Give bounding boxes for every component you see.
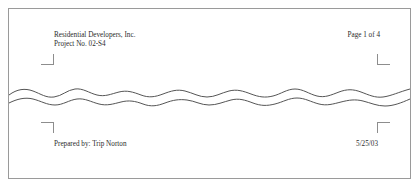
document-date-text: 5/25/03 [356,140,378,149]
crop-mark-bottom-right-icon [377,122,390,133]
page-number-label: Page 1 of 4 [347,31,380,40]
header-left-text-block: Residential Developers, Inc. Project No.… [54,31,135,50]
prepared-by-label: Prepared by: Trip Norton [54,140,126,149]
crop-mark-top-right-icon [377,54,390,65]
header-region: Residential Developers, Inc. Project No.… [9,9,410,83]
prepared-by-text: Prepared by: Trip Norton [54,140,126,149]
page-number-text: Page 1 of 4 [347,31,380,40]
footer-region: Prepared by: Trip Norton 5/25/03 [9,105,410,178]
project-number: Project No. 02-S4 [54,40,135,49]
document-date-label: 5/25/03 [356,140,378,149]
crop-mark-bottom-left-icon [41,122,54,133]
page-preview-frame: Residential Developers, Inc. Project No.… [8,8,411,179]
crop-mark-top-left-icon [41,54,54,65]
company-name: Residential Developers, Inc. [54,31,135,40]
